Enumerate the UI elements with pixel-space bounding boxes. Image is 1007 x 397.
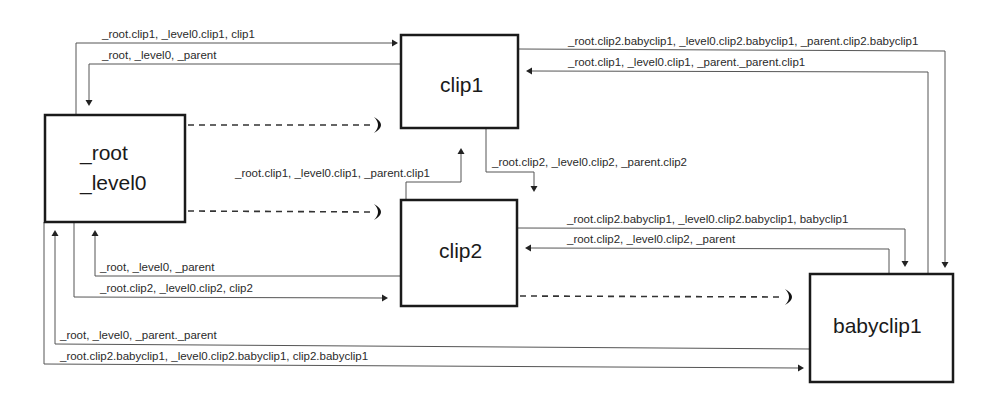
arrowhead-icon xyxy=(52,230,59,236)
edge-label-clip2-to-clip1: _root.clip1, _level0.clip1, _parent.clip… xyxy=(234,167,430,179)
edge-label-babyclip1-to-root: _root, _level0, _parent._parent xyxy=(59,329,217,341)
dashed-edge-root-to-clip2 xyxy=(188,211,372,212)
arrowhead-icon xyxy=(942,262,949,268)
node-root-label-line2: _level0 xyxy=(79,171,147,195)
edge-label-clip2-to-babyclip1: _root.clip2.babyclip1, _level0.clip2.bab… xyxy=(566,213,848,225)
edge-label-root-to-clip1: _root.clip1, _level0.clip1, clip1 xyxy=(101,28,255,40)
edge-label-babyclip1-to-clip2: _root.clip2, _level0.clip2, _parent xyxy=(566,233,736,245)
edge-label-clip1-to-babyclip1: _root.clip2.babyclip1, _level0.clip2.bab… xyxy=(567,35,918,47)
arrowhead-icon xyxy=(525,245,531,252)
edge-label-clip1-to-root: _root, _level0, _parent xyxy=(101,49,217,61)
edge-label-clip2-to-root: _root, _level0, _parent xyxy=(99,261,215,273)
arrowhead-icon xyxy=(382,295,388,302)
arrowhead-icon xyxy=(526,68,532,75)
node-root: _root _level0 xyxy=(45,115,185,222)
edge-clip1-to-root xyxy=(89,64,400,100)
movieclip-hierarchy-diagram: _root.clip1, _level0.clip1, clip1 _root,… xyxy=(0,0,1007,397)
edge-label-root-to-babyclip1: _root.clip2.babyclip1, _level0.clip2.bab… xyxy=(59,350,368,362)
node-babyclip1: babyclip1 xyxy=(810,274,953,382)
edge-label-babyclip1-to-clip1: _root.clip1, _level0.clip1, _parent._par… xyxy=(567,56,805,68)
edge-babyclip1-to-clip2 xyxy=(531,248,889,273)
edge-label-root-to-clip2: _root.clip2, _level0.clip2, clip2 xyxy=(99,282,253,294)
node-clip2-label: clip2 xyxy=(439,239,482,262)
arrowhead-icon xyxy=(531,186,538,192)
node-root-label-line1: _root xyxy=(79,141,128,165)
node-root-box xyxy=(45,115,185,222)
edge-label-clip1-to-clip2: _root.clip2, _level0.clip2, _parent.clip… xyxy=(491,156,687,168)
open-arrowhead-icon xyxy=(374,117,381,133)
node-clip1: clip1 xyxy=(401,35,518,128)
node-clip2: clip2 xyxy=(401,200,517,306)
arrowhead-icon xyxy=(798,365,804,372)
node-babyclip1-label: babyclip1 xyxy=(833,314,922,337)
arrowhead-icon xyxy=(458,148,465,154)
arrowhead-icon xyxy=(86,100,93,106)
node-clip1-label: clip1 xyxy=(440,73,483,96)
arrowhead-icon xyxy=(92,230,99,236)
open-arrowhead-icon xyxy=(374,204,381,220)
arrowhead-icon xyxy=(392,40,398,47)
open-arrowhead-icon xyxy=(785,289,792,305)
arrowhead-icon xyxy=(902,261,909,267)
dashed-edge-clip2-to-babyclip1 xyxy=(520,296,783,297)
